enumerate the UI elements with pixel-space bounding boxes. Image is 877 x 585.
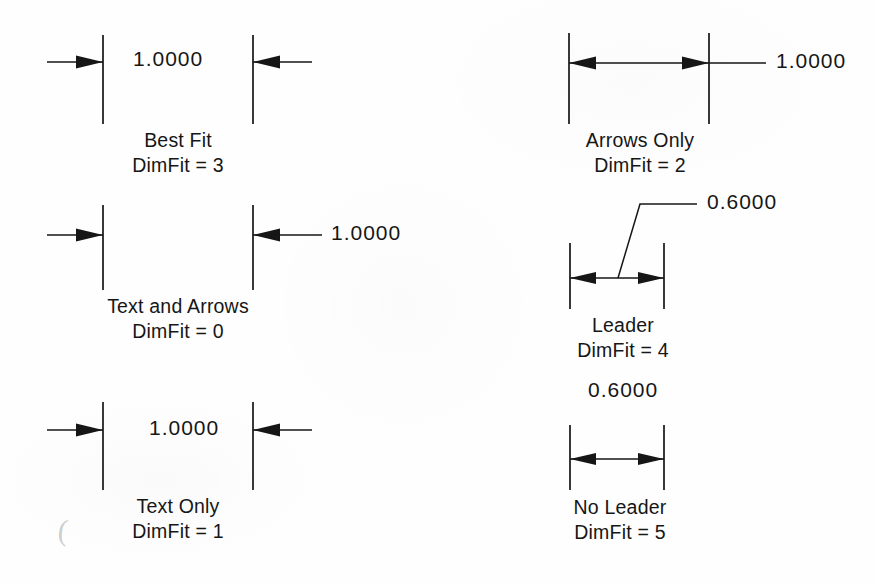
dimension-text-best-fit: 1.0000 (133, 47, 203, 71)
caption-leader: Leader DimFit = 4 (493, 313, 753, 364)
caption-title: Leader (493, 313, 753, 338)
text-and-arrows-drawing (0, 190, 420, 310)
caption-title: No Leader (490, 495, 750, 520)
caption-code: DimFit = 2 (510, 153, 770, 178)
caption-code: DimFit = 4 (493, 338, 753, 363)
caption-title: Text Only (48, 494, 308, 519)
arrowhead-right (638, 453, 664, 465)
leader-line (618, 204, 697, 278)
caption-arrows-only: Arrows Only DimFit = 2 (510, 128, 770, 179)
dimension-text-text-and-arrows: 1.0000 (331, 221, 401, 245)
arrowhead-right (682, 57, 709, 70)
diagram-no-leader: 0.6000 No Leader DimFit = 5 (540, 365, 877, 565)
arrowhead-left (570, 272, 596, 284)
arrowhead-left (570, 453, 596, 465)
caption-title: Best Fit (48, 128, 308, 153)
dimension-text-leader: 0.6000 (707, 190, 777, 214)
drawing-sheet: 1.0000 Best Fit DimFit = 3 1.0000 Arrows… (0, 0, 877, 585)
caption-text-only: Text Only DimFit = 1 (48, 494, 308, 545)
arrowhead-left (569, 57, 596, 70)
caption-no-leader: No Leader DimFit = 5 (490, 495, 750, 546)
diagram-text-only: 1.0000 Text Only DimFit = 1 ( (0, 385, 440, 570)
no-leader-drawing (540, 365, 870, 515)
caption-title: Text and Arrows (48, 294, 308, 319)
caption-text-and-arrows: Text and Arrows DimFit = 0 (48, 294, 308, 345)
text-only-drawing (0, 385, 340, 510)
caption-code: DimFit = 0 (48, 319, 308, 344)
diagram-best-fit: 1.0000 Best Fit DimFit = 3 (0, 0, 440, 195)
caption-code: DimFit = 1 (48, 519, 308, 544)
arrowhead-right (253, 229, 280, 242)
caption-code: DimFit = 5 (490, 520, 750, 545)
arrowhead-right (253, 56, 280, 69)
diagram-arrows-only: 1.0000 Arrows Only DimFit = 2 (540, 0, 877, 195)
dimension-text-text-only: 1.0000 (149, 416, 219, 440)
diagram-leader: 0.6000 Leader DimFit = 4 (540, 185, 877, 370)
arrowhead-left (76, 424, 103, 437)
caption-best-fit: Best Fit DimFit = 3 (48, 128, 308, 179)
dimension-text-arrows-only: 1.0000 (776, 49, 846, 73)
arrowhead-right (638, 272, 664, 284)
arrowhead-right (253, 424, 280, 437)
arrowhead-left (76, 56, 103, 69)
diagram-text-and-arrows: 1.0000 Text and Arrows DimFit = 0 (0, 190, 440, 370)
caption-title: Arrows Only (510, 128, 770, 153)
arrowhead-left (76, 229, 103, 242)
caption-code: DimFit = 3 (48, 153, 308, 178)
